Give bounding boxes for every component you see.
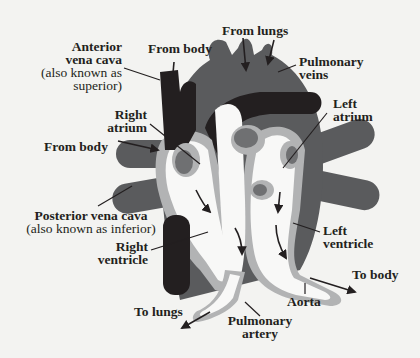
right-ventricle-line2: ventricle (90, 253, 148, 266)
label-anterior-vena-cava: Anterior vena cava (also known as superi… (40, 40, 122, 92)
anterior-vena-cava-line4: superior) (40, 79, 122, 92)
label-pulmonary-artery: Pulmonary artery (225, 314, 295, 340)
label-from-lungs: From lungs (222, 24, 288, 37)
anterior-vena-cava (160, 70, 196, 150)
pulmonary-artery-line2: artery (225, 327, 295, 340)
label-to-body: To body (352, 268, 398, 281)
label-from-body-side: From body (44, 140, 108, 153)
right-atrium-line2: atrium (95, 121, 147, 134)
label-right-ventricle: Right ventricle (90, 240, 148, 266)
label-aorta: Aorta (287, 295, 321, 308)
label-pulmonary-veins: Pulmonary veins (299, 55, 364, 81)
left-atrium-line2: atrium (333, 110, 373, 123)
posterior-vena-cava-line2: (also known as inferior) (22, 222, 160, 235)
label-right-atrium: Right atrium (95, 108, 147, 134)
left-ventricle-line2: ventricle (323, 237, 373, 250)
posterior-vena-cava (163, 215, 190, 295)
label-to-lungs: To lungs (134, 305, 183, 318)
label-from-body-top: From body (148, 42, 212, 55)
label-posterior-vena-cava: Posterior vena cava (also known as infer… (22, 209, 160, 235)
pulmonary-veins-line2: veins (299, 68, 364, 81)
label-left-ventricle: Left ventricle (323, 224, 373, 250)
label-left-atrium: Left atrium (333, 97, 373, 123)
